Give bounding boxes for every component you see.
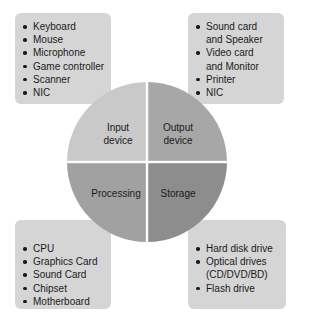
list-item: Chipset xyxy=(22,282,111,295)
processing-quadrant xyxy=(67,162,147,242)
output-device-label: Outputdevice xyxy=(153,121,203,147)
list-item: Game controller xyxy=(22,60,111,73)
list-item: Sound Card xyxy=(22,268,111,281)
storage-quadrant xyxy=(147,162,227,242)
list-item: Motherboard xyxy=(22,295,111,308)
list-item: Flash drive xyxy=(195,282,286,295)
computer-components-circle xyxy=(67,82,227,242)
list-item: Hard disk drive xyxy=(195,242,286,255)
storage-label: Storage xyxy=(153,187,203,200)
list-item: Graphics Card xyxy=(22,255,111,268)
list-item: Mouse xyxy=(22,33,111,46)
list-item: Sound cardand Speaker xyxy=(195,20,284,46)
horizontal-divider xyxy=(67,161,227,163)
list-item: CPU xyxy=(22,242,111,255)
list-item: Keyboard xyxy=(22,20,111,33)
processing-label: Processing xyxy=(86,187,146,200)
list-item: Video cardand Monitor xyxy=(195,46,284,72)
processing-list: CPU Graphics Card Sound Card Chipset Mot… xyxy=(22,242,111,308)
list-item: Optical drives(CD/DVD/BD) xyxy=(195,255,286,281)
list-item: Microphone xyxy=(22,46,111,59)
storage-list: Hard disk drive Optical drives(CD/DVD/BD… xyxy=(195,242,286,295)
input-device-label: Inputdevice xyxy=(93,121,143,147)
